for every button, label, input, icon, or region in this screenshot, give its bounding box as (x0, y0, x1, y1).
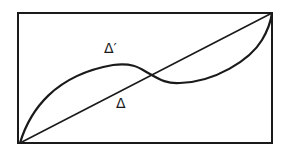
curve-label-delta-prime: Δ′ (104, 41, 117, 55)
straight-line-delta (20, 13, 272, 143)
line-label-delta: Δ (116, 96, 126, 110)
diagram-canvas (0, 0, 287, 152)
